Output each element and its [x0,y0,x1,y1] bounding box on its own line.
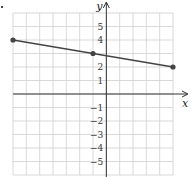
y-tick-label: −3 [90,130,104,140]
coordinate-graph: 5421−1−2−3−4−5 x y [0,0,191,178]
y-axis-label: y [95,0,103,13]
y-tick-label: 2 [98,62,104,72]
y-tick-label: 1 [98,76,104,86]
y-tick-label: 4 [98,35,104,45]
y-tick-label: −1 [90,103,103,113]
data-point [10,37,15,42]
data-point [90,51,95,56]
x-axis-label: x [182,97,189,110]
y-tick-label: 5 [98,22,104,32]
y-tick-label: −2 [90,116,103,126]
y-tick-label: −4 [90,143,104,153]
y-tick-label: −5 [90,157,104,167]
data-point [170,64,175,69]
